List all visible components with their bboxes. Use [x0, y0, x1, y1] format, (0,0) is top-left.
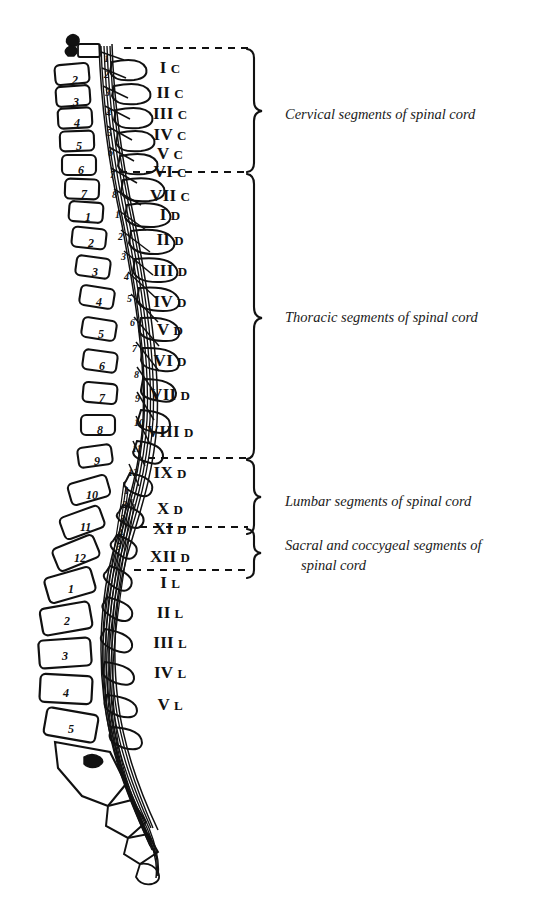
- nerve-root-number: 6: [108, 148, 113, 158]
- segment-region-letter: D: [181, 388, 190, 403]
- vertebra-number: 3: [62, 650, 68, 662]
- thoracic-vertebrae: [51, 201, 118, 573]
- segment-region-letter: D: [184, 425, 193, 440]
- vertebra-number: 6: [99, 360, 105, 372]
- nerve-root-number: 7: [132, 344, 137, 354]
- region-caption-cervical: Cervical segments of spinal cord: [285, 105, 475, 125]
- vertebra-number: 1: [68, 583, 74, 595]
- segment-region-letter: L: [174, 698, 183, 713]
- nerve-root-number: 2: [122, 500, 127, 510]
- vertebra-number: 7: [81, 188, 87, 200]
- spine-illustration: [0, 0, 553, 900]
- cord-segment-label: IC: [160, 59, 180, 76]
- vertebra-number: 2: [72, 74, 78, 86]
- cord-segment-label: IID: [156, 231, 183, 248]
- segment-region-letter: C: [171, 61, 180, 76]
- segment-region-letter: D: [177, 354, 186, 369]
- segment-region-letter: C: [177, 128, 186, 143]
- nerve-root-number: 2: [104, 70, 109, 80]
- segment-region-letter: C: [177, 165, 186, 180]
- caption-line-1: Sacral and coccygeal segments of: [285, 537, 482, 553]
- segment-roman-numeral: VI: [154, 351, 174, 370]
- segment-region-letter: D: [177, 466, 186, 481]
- nerve-root-number: 4: [118, 528, 123, 538]
- segment-roman-numeral: VI: [154, 162, 174, 181]
- cord-segment-label: VIID: [150, 386, 190, 403]
- sacrum-coccyx: [55, 742, 159, 884]
- vertebra-number: 1: [85, 211, 91, 223]
- segment-roman-numeral: III: [153, 261, 174, 280]
- cord-segment-label: VD: [157, 321, 183, 338]
- segment-region-letter: C: [181, 189, 190, 204]
- segment-roman-numeral: XI: [154, 519, 174, 538]
- cord-segment-label: IIC: [156, 84, 183, 101]
- segment-roman-numeral: III: [153, 104, 174, 123]
- vertebra-number: 11: [80, 521, 91, 533]
- segment-region-letter: L: [175, 606, 184, 621]
- segment-region-letter: D: [174, 502, 183, 517]
- nerve-root-number: 1: [104, 54, 109, 64]
- nerve-root-number: 1: [115, 210, 120, 220]
- segment-region-letter: L: [177, 666, 186, 681]
- cord-segment-label: IVC: [154, 126, 187, 143]
- cord-segment-label: VID: [154, 352, 187, 369]
- vertebra-number: 4: [63, 687, 69, 699]
- segment-region-letter: D: [181, 550, 190, 565]
- nerve-root-number: 6: [130, 318, 135, 328]
- cord-segment-label: VIIID: [147, 423, 194, 440]
- nerve-root-number: 2: [118, 232, 123, 242]
- nerve-root-number: 4: [124, 272, 129, 282]
- cord-segment-label: IVD: [154, 293, 187, 310]
- vertebra-number: 2: [64, 615, 70, 627]
- brace-lumbar: [247, 460, 261, 534]
- cord-segment-label: VIC: [154, 163, 187, 180]
- cord-segment-label: XID: [154, 520, 187, 537]
- nerve-root-number: 11: [132, 444, 141, 454]
- cord-segment-label: IIID: [153, 262, 187, 279]
- segment-roman-numeral: I: [160, 573, 167, 592]
- segment-roman-numeral: II: [156, 230, 170, 249]
- cord-segment-label: IIL: [157, 604, 184, 621]
- nerve-root-number: 5: [116, 542, 121, 552]
- nerve-root-number: 12: [128, 468, 138, 478]
- segment-region-letter: C: [174, 86, 183, 101]
- segment-roman-numeral: XII: [150, 547, 176, 566]
- segment-region-letter: D: [177, 522, 186, 537]
- caption-line-2: spinal cord: [285, 556, 482, 576]
- vertebra-number: 4: [96, 296, 102, 308]
- nerve-root-number: 4: [106, 108, 111, 118]
- segment-roman-numeral: I: [160, 58, 167, 77]
- cord-segment-label: VC: [157, 145, 183, 162]
- segment-roman-numeral: VII: [150, 186, 176, 205]
- nerve-root-number: 3: [105, 88, 110, 98]
- caption-line-1: Cervical segments of spinal cord: [285, 106, 475, 122]
- vertebra-number: 2: [88, 237, 94, 249]
- region-caption-thoracic: Thoracic segments of spinal cord: [285, 308, 478, 328]
- vertebra-number: 12: [74, 552, 86, 564]
- cord-segment-label: XIID: [150, 548, 190, 565]
- segment-roman-numeral: II: [156, 83, 170, 102]
- vertebra-number: 6: [78, 164, 84, 176]
- segment-region-letter: C: [178, 107, 187, 122]
- cord-segment-label: VL: [157, 696, 182, 713]
- segment-region-letter: D: [174, 233, 183, 248]
- nerve-root-number: 5: [127, 294, 132, 304]
- segment-roman-numeral: IV: [154, 125, 174, 144]
- vertebra-number: 5: [98, 328, 104, 340]
- cord-segment-label: ID: [160, 206, 180, 223]
- segment-roman-numeral: V: [157, 144, 170, 163]
- brace-cervical: [247, 49, 262, 172]
- segment-region-letter: L: [178, 636, 187, 651]
- cord-segment-label: IXD: [154, 464, 187, 481]
- nerve-root-number: 1: [124, 486, 129, 496]
- nerve-root-number: 8: [134, 370, 139, 380]
- segment-roman-numeral: IV: [154, 663, 174, 682]
- cord-segment-label: IIIL: [153, 634, 186, 651]
- vertebra-number: 5: [76, 140, 82, 152]
- segment-roman-numeral: VII: [150, 385, 176, 404]
- caption-line-1: Lumbar segments of spinal cord: [285, 493, 471, 509]
- nerve-root-number: 8: [112, 190, 117, 200]
- segment-region-letter: D: [178, 264, 187, 279]
- segment-roman-numeral: III: [153, 633, 174, 652]
- vertebra-number: 7: [99, 392, 105, 404]
